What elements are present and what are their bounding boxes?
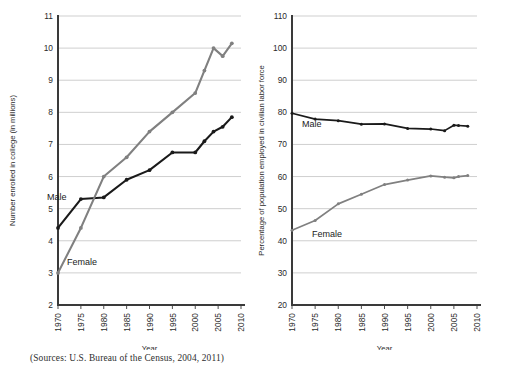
data-point-female bbox=[443, 176, 446, 179]
x-tick-label: 2000 bbox=[426, 313, 436, 332]
y-tick-label: 2 bbox=[48, 300, 53, 310]
data-point-female bbox=[221, 54, 225, 58]
x-tick-label: 2010 bbox=[472, 313, 482, 332]
y-tick-label: 6 bbox=[48, 172, 53, 182]
data-point-male bbox=[406, 127, 409, 130]
data-point-female bbox=[203, 69, 207, 73]
x-tick-label: 1985 bbox=[122, 313, 132, 332]
data-point-male bbox=[221, 125, 225, 129]
x-tick-label: 1985 bbox=[357, 313, 367, 332]
y-tick-label: 70 bbox=[278, 139, 288, 149]
data-point-female bbox=[230, 41, 234, 45]
y-tick-label: 8 bbox=[48, 107, 53, 117]
figure-container: 2345678910111970197519801985199019952000… bbox=[0, 0, 508, 391]
data-point-female bbox=[56, 271, 60, 275]
chart-panel-labor-force: 2030405060708090100110197019751980198519… bbox=[254, 0, 508, 391]
y-tick-label: 40 bbox=[278, 236, 288, 246]
data-point-male bbox=[452, 124, 455, 127]
data-point-male bbox=[383, 122, 386, 125]
data-point-female bbox=[360, 193, 363, 196]
data-point-male bbox=[148, 168, 152, 172]
data-point-female bbox=[148, 130, 152, 134]
data-point-male bbox=[56, 226, 60, 230]
data-point-male bbox=[230, 115, 234, 119]
y-axis-title: Percentage of population employed in civ… bbox=[257, 65, 266, 255]
data-point-male bbox=[102, 196, 106, 200]
data-point-male bbox=[203, 139, 207, 143]
data-point-female bbox=[429, 174, 432, 177]
y-tick-label: 5 bbox=[48, 204, 53, 214]
x-tick-label: 1980 bbox=[333, 313, 343, 332]
data-point-female bbox=[337, 202, 340, 205]
y-tick-label: 7 bbox=[48, 139, 53, 149]
data-point-male bbox=[360, 123, 363, 126]
data-point-male bbox=[212, 130, 216, 134]
data-point-female bbox=[466, 174, 469, 177]
y-tick-label: 30 bbox=[278, 268, 288, 278]
x-axis-title: Year bbox=[377, 344, 393, 350]
series-label-male: Male bbox=[302, 119, 322, 129]
data-point-female bbox=[383, 183, 386, 186]
x-tick-label: 2010 bbox=[236, 313, 246, 332]
y-tick-label: 11 bbox=[44, 11, 53, 21]
data-point-female bbox=[79, 226, 83, 230]
data-point-female bbox=[457, 175, 460, 178]
y-tick-label: 9 bbox=[48, 75, 53, 85]
x-axis-title: Year bbox=[142, 344, 158, 350]
source-note-left-line1: (Sources: U.S. Bureau of the Census, 200… bbox=[0, 352, 254, 364]
y-tick-label: 90 bbox=[278, 75, 288, 85]
data-point-male bbox=[193, 151, 197, 155]
y-tick-label: 20 bbox=[278, 300, 288, 310]
x-tick-label: 1970 bbox=[53, 313, 63, 332]
x-tick-label: 1990 bbox=[145, 313, 155, 332]
series-label-female: Female bbox=[312, 229, 342, 239]
x-tick-label: 1975 bbox=[76, 313, 86, 332]
x-tick-label: 1970 bbox=[287, 313, 297, 332]
y-tick-label: 60 bbox=[278, 172, 288, 182]
series-line-male bbox=[58, 117, 232, 228]
data-point-male bbox=[466, 125, 469, 128]
labor-force-chart: 2030405060708090100110197019751980198519… bbox=[254, 0, 508, 350]
data-point-female bbox=[102, 175, 106, 179]
series-label-female: Female bbox=[67, 257, 97, 267]
data-point-female bbox=[291, 229, 294, 232]
x-tick-label: 1980 bbox=[99, 313, 109, 332]
college-enrollment-chart: 2345678910111970197519801985199019952000… bbox=[0, 0, 254, 350]
data-point-female bbox=[406, 179, 409, 182]
y-tick-label: 4 bbox=[48, 236, 53, 246]
y-tick-label: 3 bbox=[48, 268, 53, 278]
data-point-male bbox=[457, 124, 460, 127]
x-tick-label: 1990 bbox=[380, 313, 390, 332]
x-tick-label: 2005 bbox=[213, 313, 223, 332]
data-point-male bbox=[291, 112, 294, 115]
y-tick-label: 110 bbox=[274, 11, 288, 21]
data-point-female bbox=[212, 46, 216, 50]
data-point-female bbox=[193, 91, 197, 95]
y-tick-label: 10 bbox=[44, 43, 54, 53]
series-line-female bbox=[292, 176, 468, 231]
x-tick-label: 1975 bbox=[310, 313, 320, 332]
y-tick-label: 80 bbox=[278, 107, 288, 117]
data-point-male bbox=[125, 178, 129, 182]
y-axis-title: Number enrolled in college (in millions) bbox=[8, 95, 17, 226]
data-point-male bbox=[429, 128, 432, 131]
source-note-left: (Sources: U.S. Bureau of the Census, 200… bbox=[0, 352, 254, 364]
x-tick-label: 1995 bbox=[403, 313, 413, 332]
data-point-female bbox=[452, 176, 455, 179]
x-tick-label: 1995 bbox=[168, 313, 178, 332]
series-label-male: Male bbox=[47, 192, 67, 202]
data-point-male bbox=[170, 151, 174, 155]
data-point-female bbox=[125, 155, 129, 159]
data-point-female bbox=[314, 219, 317, 222]
data-point-male bbox=[337, 119, 340, 122]
chart-panel-college-enrollment: 2345678910111970197519801985199019952000… bbox=[0, 0, 254, 391]
y-tick-label: 100 bbox=[273, 43, 287, 53]
x-tick-label: 2000 bbox=[190, 313, 200, 332]
series-line-female bbox=[58, 43, 232, 273]
data-point-male bbox=[443, 129, 446, 132]
y-tick-label: 50 bbox=[278, 204, 288, 214]
data-point-female bbox=[170, 110, 174, 114]
x-tick-label: 2005 bbox=[449, 313, 459, 332]
data-point-male bbox=[79, 197, 83, 201]
